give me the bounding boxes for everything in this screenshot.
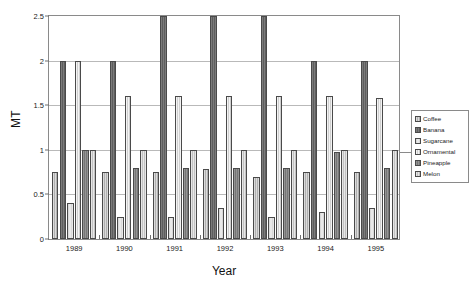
bar-ornamental-1992 (226, 96, 232, 239)
bar-melon-1992 (241, 150, 247, 239)
x-tick-label: 1990 (116, 244, 133, 253)
bar-ornamental-1995 (376, 98, 382, 239)
legend-swatch-icon (415, 127, 421, 133)
bar-group-bars (49, 16, 99, 239)
legend-item-label: Melon (423, 171, 440, 177)
bar-pineapple-1993 (283, 168, 289, 239)
bar-group-bars (99, 16, 149, 239)
bar-group: 1995 (351, 16, 401, 239)
x-tick-mark (99, 235, 100, 239)
legend-swatch-icon (415, 116, 421, 122)
y-tick-label: 0 (40, 235, 44, 244)
legend-item-label: Ornamental (423, 149, 455, 155)
bar-melon-1993 (291, 150, 297, 239)
legend-item-pineapple[interactable]: Pineapple (415, 158, 465, 168)
y-axis-title: MT (9, 89, 23, 149)
bar-group: 1992 (200, 16, 250, 239)
bar-melon-1990 (140, 150, 146, 239)
bar-ornamental-1990 (125, 96, 131, 239)
legend-swatch-icon (415, 149, 421, 155)
bar-group-bars (200, 16, 250, 239)
bar-sugarcane-1990 (117, 217, 123, 239)
bar-sugarcane-1991 (168, 217, 174, 239)
bar-melon-1995 (392, 150, 398, 239)
legend-item-sugarcane[interactable]: Sugarcane (415, 136, 465, 146)
legend-connector (400, 152, 411, 153)
bar-sugarcane-1993 (268, 217, 274, 239)
legend-item-label: Coffee (423, 116, 441, 122)
bar-pineapple-1992 (233, 168, 239, 239)
legend-item-coffee[interactable]: Coffee (415, 114, 465, 124)
bar-pineapple-1994 (334, 152, 340, 239)
x-tick-label: 1993 (267, 244, 284, 253)
bar-ornamental-1993 (276, 96, 282, 239)
bar-banana-1993 (261, 16, 267, 239)
bar-ornamental-1989 (75, 61, 81, 239)
bar-pineapple-1991 (183, 168, 189, 239)
bar-banana-1991 (160, 16, 166, 239)
bar-coffee-1990 (102, 172, 108, 239)
bar-pineapple-1990 (133, 168, 139, 239)
bar-sugarcane-1995 (369, 208, 375, 239)
bar-sugarcane-1989 (67, 203, 73, 239)
x-tick-label: 1994 (317, 244, 334, 253)
bar-sugarcane-1994 (319, 212, 325, 239)
bar-sugarcane-1992 (218, 208, 224, 239)
bar-melon-1991 (190, 150, 196, 239)
plot-area: 00.511.522.51989199019911992199319941995 (48, 15, 400, 240)
bar-group: 1993 (250, 16, 300, 239)
bar-chart-figure: MT 00.511.522.51989199019911992199319941… (0, 0, 474, 293)
x-tick-mark (351, 235, 352, 239)
bar-banana-1994 (311, 61, 317, 239)
bar-group-bars (250, 16, 300, 239)
legend-item-melon[interactable]: Melon (415, 169, 465, 179)
bar-coffee-1991 (153, 172, 159, 239)
bar-banana-1989 (60, 61, 66, 239)
legend-item-label: Pineapple (423, 160, 451, 166)
bar-melon-1989 (90, 150, 96, 239)
bar-group: 1990 (99, 16, 149, 239)
bar-banana-1992 (210, 16, 216, 239)
x-tick-mark (150, 235, 151, 239)
bar-coffee-1994 (303, 172, 309, 239)
bar-melon-1994 (341, 150, 347, 239)
bar-group-bars (351, 16, 401, 239)
bar-pineapple-1989 (82, 150, 88, 239)
bar-banana-1990 (110, 61, 116, 239)
bar-group-bars (300, 16, 350, 239)
bar-group: 1994 (300, 16, 350, 239)
legend-swatch-icon (415, 160, 421, 166)
bar-coffee-1995 (354, 172, 360, 239)
x-tick-mark (200, 235, 201, 239)
bar-ornamental-1991 (175, 96, 181, 239)
bar-coffee-1992 (203, 169, 209, 239)
legend-item-banana[interactable]: Banana (415, 125, 465, 135)
y-tick-label: 1.5 (34, 101, 44, 110)
legend-item-label: Banana (423, 127, 444, 133)
x-tick-label: 1995 (368, 244, 385, 253)
legend-swatch-icon (415, 171, 421, 177)
y-tick-label: 2 (40, 56, 44, 65)
x-axis-title: Year (48, 264, 400, 278)
bar-ornamental-1994 (326, 96, 332, 239)
bar-banana-1995 (361, 61, 367, 239)
x-tick-mark (250, 235, 251, 239)
x-tick-label: 1992 (217, 244, 234, 253)
bar-group: 1991 (150, 16, 200, 239)
bar-group: 1989 (49, 16, 99, 239)
bar-coffee-1989 (52, 172, 58, 239)
y-tick-label: 0.5 (34, 190, 44, 199)
bar-group-bars (150, 16, 200, 239)
legend-item-ornamental[interactable]: Ornamental (415, 147, 465, 157)
x-tick-label: 1989 (66, 244, 83, 253)
x-tick-label: 1991 (166, 244, 183, 253)
bar-pineapple-1995 (384, 168, 390, 239)
bar-coffee-1993 (253, 177, 259, 239)
y-tick-label: 1 (40, 145, 44, 154)
legend-swatch-icon (415, 138, 421, 144)
y-tick-label: 2.5 (34, 12, 44, 21)
legend-item-label: Sugarcane (423, 138, 453, 144)
chart-legend: CoffeeBananaSugarcaneOrnamentalPineapple… (411, 110, 469, 183)
x-tick-mark (300, 235, 301, 239)
